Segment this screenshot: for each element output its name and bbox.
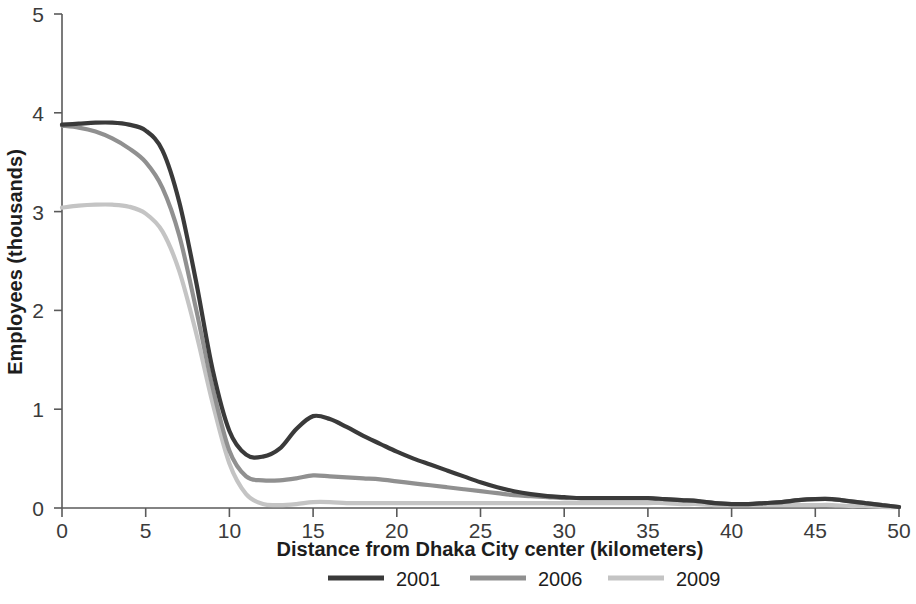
x-tick-label: 40 — [720, 519, 743, 542]
chart-figure: 012345 05101520253035404550 Distance fro… — [0, 0, 916, 604]
y-tick-label: 2 — [32, 299, 44, 322]
x-tick-label: 45 — [804, 519, 827, 542]
x-tick-label: 0 — [56, 519, 68, 542]
y-tick-label: 5 — [32, 3, 44, 26]
y-tick-label: 4 — [32, 102, 44, 125]
legend-label-2006: 2006 — [538, 568, 583, 590]
x-tick-label: 10 — [218, 519, 241, 542]
y-tick-label: 0 — [32, 497, 44, 520]
x-axis-title: Distance from Dhaka City center (kilomet… — [277, 538, 704, 560]
y-tick-label: 3 — [32, 201, 44, 224]
x-tick-label: 50 — [887, 519, 910, 542]
legend-label-2001: 2001 — [396, 568, 441, 590]
legend-label-2009: 2009 — [676, 568, 721, 590]
y-axis-title: Employees (thousands) — [4, 149, 26, 375]
chart-background — [0, 0, 916, 604]
y-tick-label: 1 — [32, 398, 44, 421]
line-chart-canvas: 012345 05101520253035404550 Distance fro… — [0, 0, 916, 604]
x-tick-label: 5 — [140, 519, 152, 542]
